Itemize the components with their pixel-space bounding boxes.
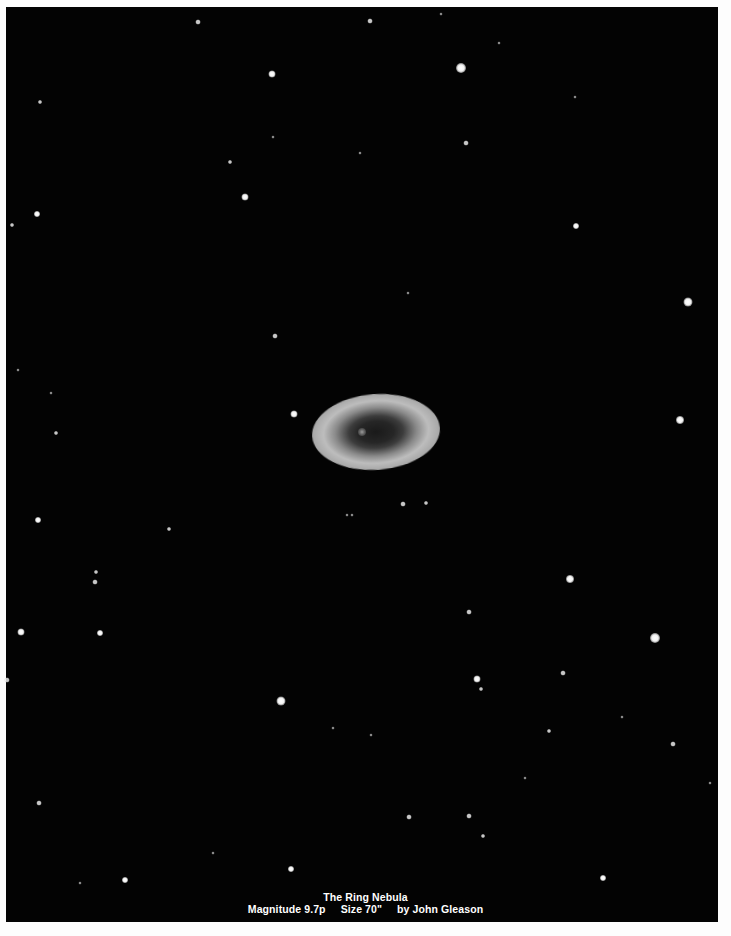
- star: [474, 676, 481, 683]
- star: [291, 411, 298, 418]
- star: [370, 734, 373, 737]
- star: [566, 575, 574, 583]
- star: [351, 514, 354, 517]
- star: [467, 610, 472, 615]
- star: [464, 141, 469, 146]
- star: [424, 501, 428, 505]
- star: [212, 852, 215, 855]
- star: [481, 834, 485, 838]
- star: [621, 716, 624, 719]
- star: [671, 742, 676, 747]
- star: [94, 570, 98, 574]
- star: [650, 633, 660, 643]
- star: [574, 96, 577, 99]
- star: [35, 517, 41, 523]
- star: [368, 19, 373, 24]
- star: [17, 369, 20, 372]
- star: [440, 13, 443, 16]
- star: [573, 223, 579, 229]
- star: [54, 431, 58, 435]
- star: [524, 777, 527, 780]
- star: [407, 815, 412, 820]
- star: [684, 298, 693, 307]
- star: [600, 875, 606, 881]
- star: [272, 136, 275, 139]
- star: [93, 580, 98, 585]
- star: [498, 42, 501, 45]
- star: [359, 152, 362, 155]
- star: [97, 630, 103, 636]
- caption-credit: by John Gleason: [397, 903, 483, 915]
- caption-title: The Ring Nebula: [0, 891, 731, 903]
- star: [456, 63, 466, 73]
- star: [332, 727, 335, 730]
- image-caption: The Ring Nebula Magnitude 9.7p Size 70" …: [0, 891, 731, 915]
- star: [34, 211, 40, 217]
- star: [467, 814, 472, 819]
- star: [167, 527, 171, 531]
- star: [547, 729, 551, 733]
- star: [18, 629, 25, 636]
- star: [79, 882, 82, 885]
- star: [228, 160, 232, 164]
- star: [10, 223, 14, 227]
- star: [50, 392, 53, 395]
- star: [5, 678, 10, 683]
- star: [38, 100, 42, 104]
- star: [269, 71, 276, 78]
- star: [561, 671, 566, 676]
- star: [242, 194, 249, 201]
- star: [709, 782, 712, 785]
- star: [407, 292, 410, 295]
- star: [479, 687, 483, 691]
- star: [273, 334, 278, 339]
- star: [401, 502, 406, 507]
- caption-size: Size 70": [341, 903, 382, 915]
- central-star: [358, 428, 366, 436]
- star: [676, 416, 684, 424]
- star: [122, 877, 128, 883]
- caption-magnitude: Magnitude 9.7p: [248, 903, 326, 915]
- caption-details: Magnitude 9.7p Size 70" by John Gleason: [0, 903, 731, 915]
- star: [346, 514, 349, 517]
- star: [196, 20, 201, 25]
- star: [288, 866, 294, 872]
- star: [277, 697, 286, 706]
- star: [37, 801, 42, 806]
